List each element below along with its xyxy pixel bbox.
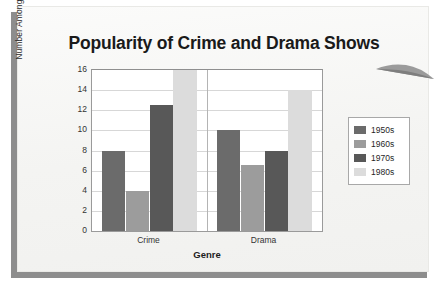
y-axis-ticks: 0246810121416 bbox=[71, 69, 87, 232]
y-axis-tick-label: 14 bbox=[71, 84, 87, 94]
y-axis-tick-label: 16 bbox=[71, 64, 87, 74]
y-axis-title: Number Among Top 100 bbox=[14, 0, 28, 83]
x-axis-labels: CrimeDrama bbox=[91, 235, 323, 249]
y-axis-tick-label: 0 bbox=[71, 225, 87, 235]
legend-swatch-icon bbox=[354, 154, 366, 162]
bar-crime-1980s bbox=[173, 70, 196, 231]
paper-sheet: Popularity of Crime and Drama Shows Numb… bbox=[17, 6, 429, 272]
bar-drama-1980s bbox=[288, 90, 311, 231]
legend-label: 1960s bbox=[371, 139, 394, 149]
bar-drama-1950s bbox=[217, 130, 240, 231]
bars-layer bbox=[92, 70, 322, 231]
bar-crime-1960s bbox=[126, 191, 149, 231]
x-axis-title: Genre bbox=[91, 249, 323, 260]
y-axis-tick-label: 8 bbox=[71, 145, 87, 155]
legend-swatch-icon bbox=[354, 168, 366, 176]
bar-drama-1970s bbox=[265, 151, 288, 232]
chart-legend: 1950s1960s1970s1980s bbox=[348, 117, 410, 185]
legend-swatch-icon bbox=[354, 140, 366, 148]
y-axis-tick-label: 4 bbox=[71, 185, 87, 195]
legend-item-1980s: 1980s bbox=[354, 165, 404, 179]
plot-area bbox=[91, 69, 323, 232]
y-axis-tick-label: 2 bbox=[71, 205, 87, 215]
y-axis-tick-label: 10 bbox=[71, 124, 87, 134]
legend-label: 1950s bbox=[371, 125, 394, 135]
y-axis-tick-label: 6 bbox=[71, 165, 87, 175]
x-axis-label-drama: Drama bbox=[251, 235, 277, 245]
x-axis-label-crime: Crime bbox=[137, 235, 160, 245]
y-axis-title-wrap: Number Among Top 100 bbox=[54, 73, 68, 231]
bar-crime-1970s bbox=[150, 105, 173, 231]
bar-crime-1950s bbox=[102, 151, 125, 232]
legend-item-1970s: 1970s bbox=[354, 151, 404, 165]
legend-item-1950s: 1950s bbox=[354, 123, 404, 137]
legend-label: 1970s bbox=[371, 153, 394, 163]
y-axis-tick-label: 12 bbox=[71, 104, 87, 114]
bar-drama-1960s bbox=[241, 165, 264, 231]
legend-swatch-icon bbox=[354, 126, 366, 134]
legend-label: 1980s bbox=[371, 167, 394, 177]
chart-title: Popularity of Crime and Drama Shows bbox=[18, 33, 430, 54]
legend-item-1960s: 1960s bbox=[354, 137, 404, 151]
page-root: Popularity of Crime and Drama Shows Numb… bbox=[0, 0, 444, 292]
plot-wrapper: 0246810121416 CrimeDrama Genre bbox=[71, 69, 323, 232]
